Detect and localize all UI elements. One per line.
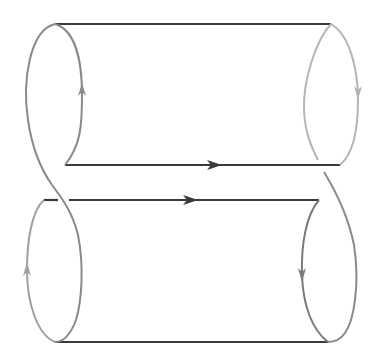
horizontal-edges	[44, 24, 340, 342]
right-twist-strand	[324, 172, 356, 342]
bottom-left-boundary	[27, 200, 55, 342]
top-right-boundary	[304, 24, 358, 165]
top-left-boundary	[26, 24, 82, 185]
bottom-right-boundary	[302, 200, 328, 342]
twisted-cylinder-diagram	[0, 0, 380, 356]
left-twist-strand	[52, 185, 82, 342]
arrowheads	[23, 83, 362, 282]
